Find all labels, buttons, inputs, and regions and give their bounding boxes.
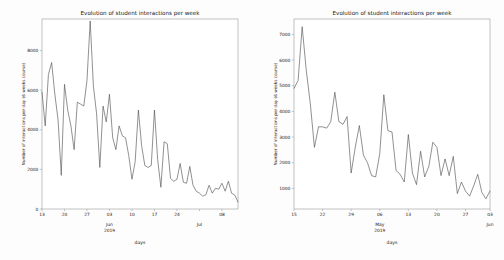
left-chart-title: Evolution of student interactions per we… (81, 10, 201, 17)
figure-page: Evolution of student interactions per we… (0, 0, 504, 260)
left-y-tick-label: 2000 (27, 167, 38, 172)
right-month-label: Jun (486, 222, 494, 227)
right-x-tick-label: 13 (406, 212, 412, 217)
right-x-tick-label: 27 (463, 212, 469, 217)
left-month-label: Jun (105, 222, 113, 227)
left-y-tick-label: 8000 (27, 48, 38, 53)
left-y-tick-label: 0 (36, 207, 39, 212)
right-chart-svg: Evolution of student interactions per we… (252, 0, 504, 260)
right-x-tick-label: 06 (377, 212, 383, 217)
right-y-tick-label: 3000 (279, 135, 290, 140)
chart-figure-left: Evolution of student interactions per we… (0, 0, 252, 260)
left-x-tick-label: 08 (219, 212, 225, 217)
right-y-tick-label: 6000 (279, 58, 290, 63)
right-x-tick-label: 20 (434, 212, 440, 217)
left-month-label: Jul (196, 222, 202, 227)
left-x-tick-label: 17 (152, 212, 158, 217)
right-chart-title: Evolution of student interactions per we… (333, 10, 453, 17)
right-x-tick-label: 15 (291, 212, 297, 217)
left-x-tick-label: 10 (129, 212, 135, 217)
left-x-tick-label: 27 (84, 212, 90, 217)
left-x-tick-label: 03 (107, 212, 113, 217)
right-x-tick-label: 22 (320, 212, 326, 217)
right-x-tick-label: 03 (487, 212, 493, 217)
right-x-tick-label: 29 (348, 212, 354, 217)
left-y-axis-label: Number of interactions per day (6 weeks … (21, 62, 26, 165)
right-y-axis-label: Number of interactions per day (6 weeks … (273, 62, 278, 165)
right-month-label: 2019 (374, 228, 385, 233)
right-y-tick-label: 4000 (279, 109, 290, 114)
left-y-tick-label: 6000 (27, 88, 38, 93)
left-chart-svg: Evolution of student interactions per we… (0, 0, 252, 260)
right-x-axis-label: days (387, 240, 398, 245)
left-x-axis-label: days (135, 240, 146, 245)
left-y-tick-label: 4000 (27, 127, 38, 132)
right-plot-area-background (294, 19, 490, 209)
left-plot-area-background (42, 19, 238, 209)
right-y-tick-label: 1000 (279, 186, 290, 191)
chart-figure-right: Evolution of student interactions per we… (252, 0, 504, 260)
left-x-tick-label: 24 (174, 212, 180, 217)
left-x-tick-label: 13 (39, 212, 45, 217)
left-month-label: 2019 (104, 228, 115, 233)
right-y-tick-label: 7000 (279, 32, 290, 37)
right-month-label: May (375, 222, 384, 227)
right-y-tick-label: 5000 (279, 83, 290, 88)
left-x-tick-label: 20 (62, 212, 68, 217)
right-y-tick-label: 2000 (279, 160, 290, 165)
